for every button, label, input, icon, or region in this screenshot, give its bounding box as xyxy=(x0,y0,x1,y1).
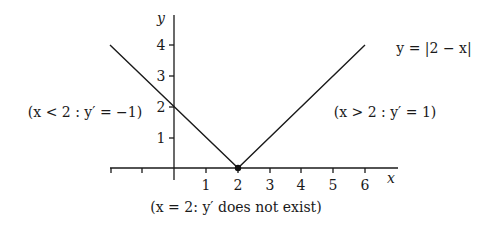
x-tick-label-1: 1 xyxy=(202,177,211,193)
abs-value-chart: 1 2 3 4 5 6 x 4 3 2 1 y y = |2 − x| (x <… xyxy=(0,0,497,228)
function-label: y = |2 − x| xyxy=(395,40,471,57)
abs-value-line xyxy=(110,45,365,168)
vertex-note: (x = 2: y′ does not exist) xyxy=(150,199,321,215)
y-axis xyxy=(169,15,174,180)
y-axis-label: y xyxy=(156,10,166,26)
y-tick-label-2: 2 xyxy=(157,99,166,115)
vertex-point xyxy=(235,165,241,171)
x-tick-label-4: 4 xyxy=(297,177,306,193)
right-slope-note: (x > 2 : y′ = 1) xyxy=(334,104,437,120)
y-tick-label-3: 3 xyxy=(157,68,166,84)
x-tick-label-6: 6 xyxy=(361,177,370,193)
y-tick-label-4: 4 xyxy=(157,37,166,53)
x-tick-label-3: 3 xyxy=(266,177,275,193)
x-tick-label-5: 5 xyxy=(329,177,338,193)
y-tick-label-1: 1 xyxy=(157,130,166,146)
left-slope-note: (x < 2 : y′ = −1) xyxy=(28,104,142,120)
x-axis-label: x xyxy=(387,170,395,186)
x-tick-label-2: 2 xyxy=(234,177,243,193)
x-axis xyxy=(110,168,398,173)
